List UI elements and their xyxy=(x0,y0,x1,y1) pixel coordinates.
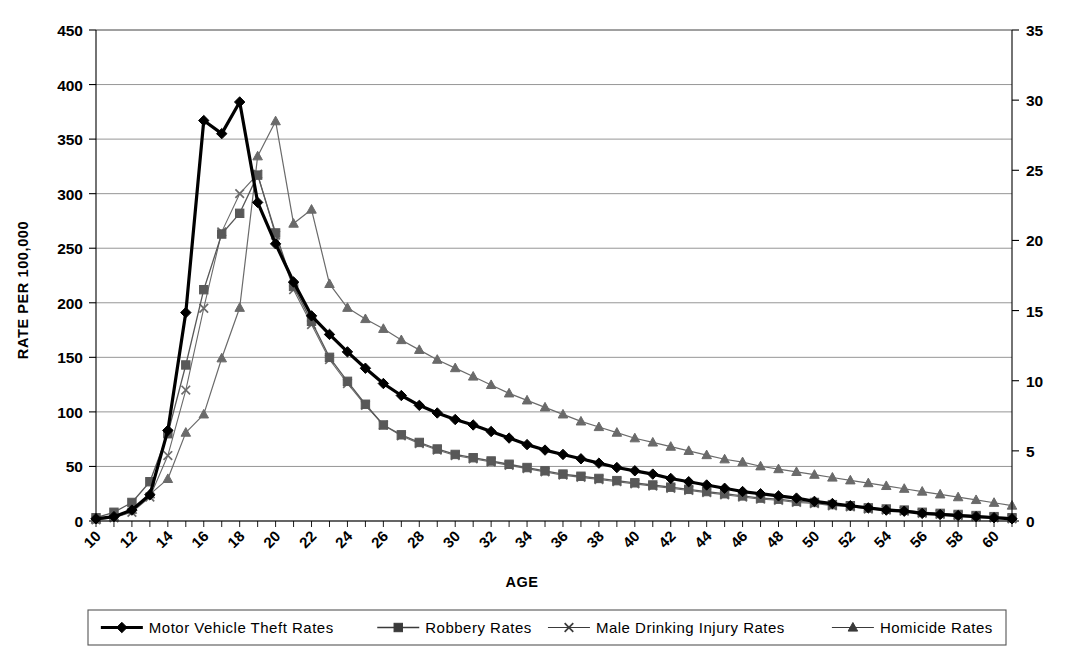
y-right-tick-label: 15 xyxy=(1026,303,1044,320)
legend-label: Homicide Rates xyxy=(880,619,993,636)
y-right-tick-label: 35 xyxy=(1026,22,1044,39)
x-tick-label: 38 xyxy=(583,527,607,551)
data-point-triangle-marker xyxy=(253,151,263,160)
series-robbery-rates xyxy=(92,171,1016,522)
data-point-triangle-marker xyxy=(415,345,425,354)
y-tick-label: 450 xyxy=(57,22,83,39)
data-point-diamond-marker xyxy=(450,414,460,424)
data-point-triangle-marker xyxy=(235,303,245,312)
x-tick-label: 20 xyxy=(260,527,284,551)
x-tick-label: 28 xyxy=(403,527,427,551)
x-tick-label: 56 xyxy=(906,527,930,551)
data-point-square-marker xyxy=(325,353,333,361)
data-point-triangle-marker xyxy=(163,474,173,483)
y-tick-label: 50 xyxy=(66,458,83,475)
data-point-square-marker xyxy=(631,479,639,487)
x-tick-label: 46 xyxy=(727,527,751,551)
x-tick-label: 44 xyxy=(691,527,715,551)
data-point-triangle-marker xyxy=(379,324,389,333)
y-axis-right-tick-labels: 05101520253035 xyxy=(1026,22,1044,530)
legend-label: Male Drinking Injury Rates xyxy=(596,619,785,636)
series-line xyxy=(96,121,1012,519)
data-point-diamond-marker xyxy=(486,426,496,436)
x-tick-label: 10 xyxy=(80,527,104,551)
data-point-square-marker xyxy=(433,445,441,453)
chart-figure: 050100150200250300350400450 051015202530… xyxy=(0,0,1077,660)
y-tick-label: 100 xyxy=(57,404,83,421)
line-chart: 050100150200250300350400450 051015202530… xyxy=(0,0,1077,660)
data-point-diamond-marker xyxy=(576,454,586,464)
x-tick-label: 52 xyxy=(835,527,859,551)
data-point-square-marker xyxy=(523,463,531,471)
data-point-triangle-marker xyxy=(289,219,299,228)
data-point-square-marker xyxy=(577,472,585,480)
legend-label: Robbery Rates xyxy=(425,619,532,636)
data-point-square-marker xyxy=(182,361,190,369)
data-point-diamond-marker xyxy=(432,408,442,418)
grid-lines xyxy=(96,30,1012,521)
x-tick-label: 16 xyxy=(188,527,212,551)
x-tick-label: 42 xyxy=(655,527,679,551)
y-right-tick-label: 30 xyxy=(1026,92,1043,109)
data-point-square-marker xyxy=(218,230,226,238)
data-point-diamond-marker xyxy=(468,420,478,430)
data-point-square-marker xyxy=(487,457,495,465)
data-point-square-marker xyxy=(235,209,243,217)
data-point-diamond-marker xyxy=(540,445,550,455)
y-right-tick-label: 10 xyxy=(1026,373,1043,390)
series-motor-vehicle-theft-rates xyxy=(91,97,1017,524)
x-tick-label: 60 xyxy=(978,527,1002,551)
data-point-triangle-marker xyxy=(468,372,478,381)
x-tick-label: 50 xyxy=(799,527,823,551)
data-point-square-marker xyxy=(343,377,351,385)
data-point-diamond-marker xyxy=(648,469,658,479)
data-point-diamond-marker xyxy=(522,439,532,449)
x-tick-label: 22 xyxy=(296,527,320,551)
y-tick-label: 200 xyxy=(57,295,83,312)
series-male-drinking-injury-rates xyxy=(92,170,1017,524)
data-point-square-marker xyxy=(469,454,477,462)
x-tick-label: 12 xyxy=(116,527,140,551)
legend-label: Motor Vehicle Theft Rates xyxy=(149,619,334,636)
y-tick-label: 400 xyxy=(57,77,83,94)
y-tick-label: 300 xyxy=(57,186,83,203)
y-tick-label: 350 xyxy=(57,131,83,148)
x-tick-label: 58 xyxy=(942,527,966,551)
data-point-triangle-marker xyxy=(199,409,209,418)
data-point-diamond-marker xyxy=(504,433,514,443)
data-point-triangle-marker xyxy=(450,363,460,372)
data-point-cross-marker xyxy=(182,386,191,395)
x-tick-label: 18 xyxy=(224,527,248,551)
series-homicide-rates xyxy=(91,116,1017,523)
data-point-diamond-marker xyxy=(630,466,640,476)
axis-lines xyxy=(96,30,1012,521)
x-tick-label: 30 xyxy=(439,527,463,551)
chart-legend: Motor Vehicle Theft RatesRobbery RatesMa… xyxy=(88,610,1006,645)
y-axis-tick-labels: 050100150200250300350400450 xyxy=(57,22,83,530)
data-point-square-marker xyxy=(379,421,387,429)
x-tick-label: 40 xyxy=(619,527,643,551)
data-point-square-marker xyxy=(505,460,513,468)
data-point-square-marker xyxy=(415,438,423,446)
x-tick-label: 36 xyxy=(547,527,571,551)
data-point-square-marker xyxy=(613,476,621,484)
y-right-tick-label: 5 xyxy=(1026,443,1035,460)
data-point-square-marker xyxy=(559,470,567,478)
y-right-tick-label: 20 xyxy=(1026,232,1043,249)
x-axis-tick-labels: 1012141618202224262830323436384042444648… xyxy=(80,527,1002,551)
y-right-tick-label: 25 xyxy=(1026,162,1044,179)
y-tick-label: 0 xyxy=(74,513,83,530)
data-point-triangle-marker xyxy=(433,355,443,364)
data-point-triangle-marker xyxy=(271,116,281,125)
data-point-square-marker xyxy=(649,481,657,489)
series-line xyxy=(96,102,1012,519)
y-tick-label: 150 xyxy=(57,349,83,366)
data-point-diamond-marker xyxy=(612,462,622,472)
data-point-square-marker xyxy=(200,285,208,293)
data-point-triangle-marker xyxy=(325,279,335,288)
x-tick-label: 14 xyxy=(152,527,176,551)
data-point-cross-marker xyxy=(164,451,173,460)
x-tick-label: 24 xyxy=(332,527,356,551)
data-point-triangle-marker xyxy=(361,314,371,323)
x-tick-label: 32 xyxy=(475,527,499,551)
